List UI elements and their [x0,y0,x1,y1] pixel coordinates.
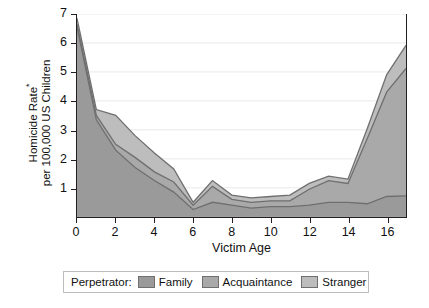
y-tick-mark-7 [71,14,76,15]
y-tick-mark-2 [71,160,76,161]
x-tick-label-0: 0 [56,225,96,239]
legend-entry-acquaintance[interactable]: Acquaintance [202,276,293,288]
x-tick-mark-14 [349,218,350,223]
y-tick-mark-5 [71,72,76,73]
x-tick-label-8: 8 [212,225,252,239]
legend-entry-family[interactable]: Family [138,276,193,288]
legend-label-family: Family [159,276,193,288]
y-tick-label-3: 3 [27,123,67,137]
y-tick-label-5: 5 [27,64,67,78]
legend-swatch-family [138,276,155,288]
y-tick-label-1: 1 [27,181,67,195]
y-tick-mark-1 [71,189,76,190]
x-tick-mark-16 [388,218,389,223]
legend-swatch-acquaintance [202,276,219,288]
y-tick-mark-6 [71,43,76,44]
x-tick-label-10: 10 [251,225,291,239]
legend-label-acquaintance: Acquaintance [223,276,293,288]
x-tick-mark-12 [310,218,311,223]
x-tick-label-6: 6 [173,225,213,239]
homicide-rate-chart: Homicide Rate* per 100,000 US Children V… [0,0,429,308]
plot-area [76,14,407,218]
legend-entry-stranger[interactable]: Stranger [301,276,366,288]
x-tick-label-14: 14 [329,225,369,239]
y-tick-label-4: 4 [27,93,67,107]
x-tick-mark-10 [271,218,272,223]
x-tick-mark-8 [232,218,233,223]
y-tick-mark-4 [71,101,76,102]
legend-title: Perpetrator: [71,276,132,288]
y-tick-label-7: 7 [27,6,67,20]
stacked-area-series [77,14,406,217]
legend-label-stranger: Stranger [322,276,366,288]
x-tick-label-16: 16 [368,225,408,239]
x-tick-mark-6 [193,218,194,223]
legend-swatch-stranger [301,276,318,288]
x-axis-title: Victim Age [76,241,407,255]
y-axis-title-footnote-marker: * [24,83,34,87]
y-tick-label-6: 6 [27,35,67,49]
x-tick-label-4: 4 [134,225,174,239]
y-tick-label-2: 2 [27,152,67,166]
x-tick-mark-0 [76,218,77,223]
x-tick-label-12: 12 [290,225,330,239]
legend: Perpetrator: Family Acquaintance Strange… [63,271,369,293]
x-tick-mark-2 [115,218,116,223]
x-tick-mark-4 [154,218,155,223]
y-tick-mark-3 [71,131,76,132]
x-tick-label-2: 2 [95,225,135,239]
